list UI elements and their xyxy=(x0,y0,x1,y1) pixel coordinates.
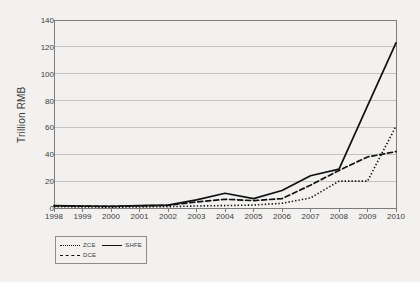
chart-legend: ZCESHFEDCE xyxy=(55,236,147,264)
legend-row: DCE xyxy=(60,250,142,260)
legend-item-dce[interactable]: DCE xyxy=(60,252,104,258)
legend-label: DCE xyxy=(83,252,96,258)
legend-swatch-dotted-line-icon xyxy=(60,242,80,248)
legend-swatch-dashed-line-icon xyxy=(60,252,80,258)
legend-label: ZCE xyxy=(83,242,96,248)
legend-row: ZCESHFE xyxy=(60,240,142,250)
series-line-zce xyxy=(54,126,396,207)
legend-label: SHFE xyxy=(125,242,142,248)
gridlines xyxy=(54,20,396,208)
legend-swatch-solid-line-icon xyxy=(102,242,122,248)
series-line-dce xyxy=(54,152,396,207)
line-chart-figure: Trillion RMB 020406080100120140 19981999… xyxy=(0,0,420,282)
legend-item-shfe[interactable]: SHFE xyxy=(102,242,142,248)
axis-frame xyxy=(54,20,396,208)
x-axis-tick-marks xyxy=(54,208,396,212)
data-series-lines xyxy=(54,43,396,207)
legend-item-zce[interactable]: ZCE xyxy=(60,242,99,248)
